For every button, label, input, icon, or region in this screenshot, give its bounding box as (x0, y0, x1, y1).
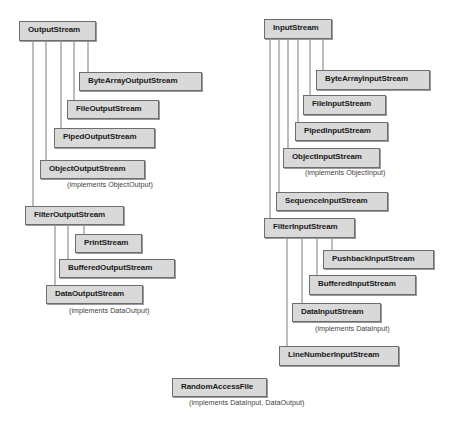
note-implements-objectinput: (implements ObjectInput) (305, 169, 385, 176)
node-pushbackinputstream: PushbackInputStream (323, 250, 434, 269)
node-bytearrayinputstream: ByteArrayInputStream (316, 70, 430, 90)
node-inputstream: InputStream (264, 19, 332, 39)
node-fileinputstream: FileInputStream (303, 95, 386, 115)
node-bytearrayoutputstream: ByteArrayOutputStream (79, 72, 202, 91)
node-objectinputstream: ObjectInputStream (283, 148, 380, 168)
node-printstream: PrintStream (75, 234, 142, 253)
node-fileoutputstream: FileOutputStream (67, 100, 159, 119)
note-implements-dataoutput: (implements DataOutput) (69, 307, 149, 314)
node-outputstream: OutputStream (19, 21, 96, 41)
node-filteroutputstream: FilterOutputStream (25, 206, 124, 225)
note-implements-objectoutput: (implements ObjectOutput) (67, 181, 153, 188)
node-randomaccessfile: RandomAccessFile (172, 378, 267, 397)
node-objectoutputstream: ObjectOutputStream (40, 160, 145, 179)
node-bufferedoutputstream: BufferedOutputStream (59, 259, 175, 278)
node-bufferedinputstream: BufferedInputStream (309, 275, 416, 295)
node-dataoutputstream: DataOutputStream (46, 285, 143, 304)
node-linenumberinputstream: LineNumberInputStream (279, 346, 399, 366)
node-sequenceinputstream: SequenceInputStream (276, 192, 388, 211)
stream-class-hierarchy-diagram: OutputStream ByteArrayOutputStream FileO… (0, 0, 449, 427)
node-pipedoutputstream: PipedOutputStream (54, 128, 155, 148)
note-implements-datainput-dataoutput: (implements DataInput, DataOutput) (189, 399, 304, 406)
node-datainputstream: DataInputStream (292, 303, 381, 322)
node-pipedinputstream: PipedInputStream (295, 122, 388, 141)
note-implements-datainput: (implements DataInput) (315, 325, 390, 332)
node-filterinputstream: FilterInputStream (264, 218, 355, 238)
